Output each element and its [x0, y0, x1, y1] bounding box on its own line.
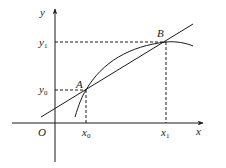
secant-line [41, 24, 193, 117]
coordinate-diagram: y x O A B y1 y0 x0 x1 [0, 0, 226, 168]
x0-subscript: 0 [87, 132, 91, 140]
y-axis-label: y [39, 6, 45, 18]
origin-label: O [38, 126, 46, 138]
y1-label: y1 [38, 36, 48, 50]
diagram-canvas: y x O A B y1 y0 x0 x1 [0, 0, 226, 168]
function-curve [75, 42, 193, 117]
y1-subscript: 1 [44, 42, 48, 50]
y0-subscript: 0 [44, 89, 48, 97]
projection-lines [55, 42, 166, 123]
x-axis-label: x [195, 125, 201, 137]
point-b-label: B [157, 27, 164, 39]
point-a-label: A [75, 78, 83, 90]
x1-label: x1 [160, 126, 170, 140]
x1-subscript: 1 [166, 132, 170, 140]
x0-label: x0 [81, 126, 91, 140]
y0-label: y0 [38, 83, 48, 97]
